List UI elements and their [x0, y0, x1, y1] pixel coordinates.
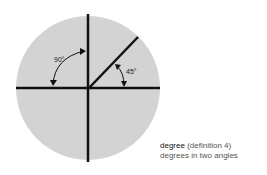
label-45: 45° — [126, 68, 137, 75]
caption: degree (definition 4) degrees in two ang… — [160, 141, 238, 160]
caption-term: degree — [160, 141, 185, 150]
caption-line-1: degree (definition 4) — [160, 141, 238, 151]
label-90: 90° — [54, 56, 65, 63]
caption-definition-ref: (definition 4) — [187, 141, 231, 150]
caption-text: degrees in two angles — [160, 151, 238, 161]
